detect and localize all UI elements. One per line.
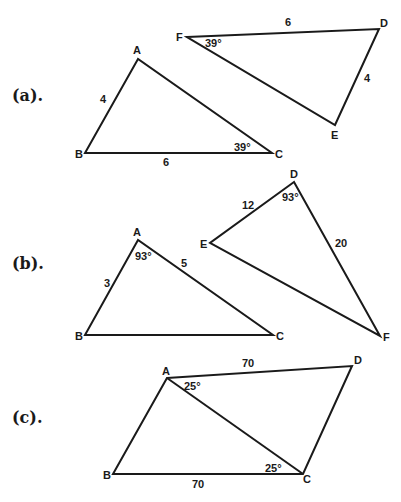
angle-label-bca: 25° [265, 462, 282, 474]
side-label-ac: 5 [181, 257, 187, 269]
vertex-label-b: B [75, 148, 83, 160]
figure-a-triangle-def: F D E 6 4 39° [176, 16, 388, 141]
vertex-label-a: A [162, 365, 170, 377]
triangle-abc-shape [85, 240, 273, 335]
angle-label-dac: 25° [184, 380, 201, 392]
side-label-fd: 6 [285, 16, 291, 28]
vertex-label-f: F [176, 31, 183, 43]
angle-label-c: 39° [234, 141, 251, 153]
vertex-label-c: C [276, 330, 284, 342]
triangle-def-shape [210, 182, 380, 336]
angle-label-a: 93° [135, 250, 152, 262]
vertex-label-d: D [354, 354, 362, 366]
vertex-label-a: A [133, 44, 141, 56]
side-label-de: 4 [364, 72, 371, 84]
vertex-label-d: D [290, 168, 298, 180]
angle-label-d: 93° [282, 191, 299, 203]
triangle-abc-shape [85, 59, 272, 153]
vertex-label-c: C [303, 473, 311, 485]
diagonal-ac [167, 378, 303, 474]
angle-label-f: 39° [205, 37, 222, 49]
side-label-bc: 70 [192, 478, 204, 490]
vertex-label-a: A [133, 226, 141, 238]
vertex-label-b: B [75, 330, 83, 342]
quadrilateral-abcd-shape [113, 366, 352, 474]
vertex-label-b: B [103, 469, 111, 481]
side-label-bc: 6 [163, 156, 169, 168]
diagram-canvas: (a). (b). (c). A B C 4 6 39° F D E 6 4 3… [0, 0, 401, 502]
vertex-label-d: D [380, 17, 388, 29]
side-label-ab: 3 [104, 277, 110, 289]
vertex-label-c: C [275, 148, 283, 160]
figure-c-quadrilateral-abcd: A B C D 70 70 25° 25° [103, 354, 362, 490]
vertex-label-e: E [200, 238, 207, 250]
side-label-ad: 70 [242, 357, 254, 369]
vertex-label-f: F [383, 331, 390, 343]
side-label-df: 20 [335, 237, 347, 249]
side-label-ab: 4 [100, 93, 107, 105]
figure-a-triangle-abc: A B C 4 6 39° [75, 44, 283, 168]
side-label-ed: 12 [242, 199, 254, 211]
figure-b-triangle-abc: A B C 3 5 93° [75, 226, 284, 342]
vertex-label-e: E [331, 129, 338, 141]
figure-b-triangle-def: D E F 12 20 93° [200, 168, 390, 343]
